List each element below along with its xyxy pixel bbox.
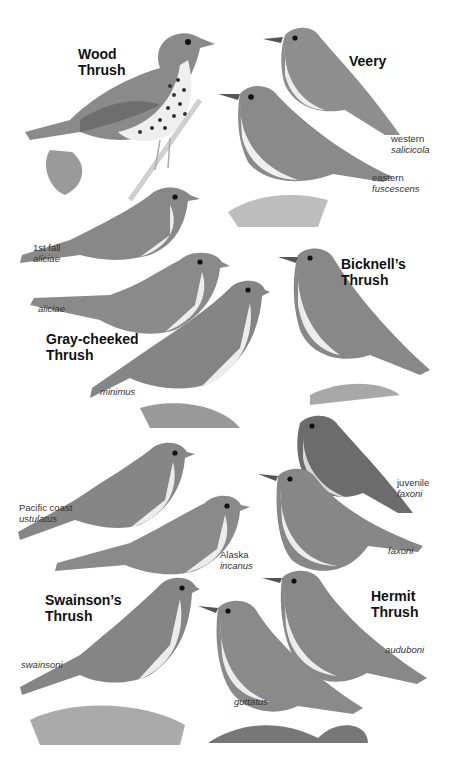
form-label-veery-western: western salicicola	[391, 134, 430, 156]
form-label-gray-cheeked-minimus: minimus	[100, 387, 135, 398]
form-subspecies: aliciae	[38, 304, 65, 315]
species-name-line1: Wood	[78, 46, 125, 62]
form-label-hermit-faxoni: faxoni	[388, 546, 413, 557]
form-label-hermit-auduboni: auduboni	[385, 645, 424, 656]
hermit-guttatus-illustration	[198, 598, 368, 748]
species-name-line2: Thrush	[45, 608, 122, 624]
form-subspecies: salicicola	[391, 145, 430, 156]
form-subspecies: auduboni	[385, 645, 424, 656]
species-label-hermit-thrush: Hermit Thrush	[371, 588, 418, 620]
form-label-gray-cheeked-aliciae: aliciae	[38, 304, 65, 315]
species-label-wood-thrush: Wood Thrush	[78, 46, 125, 78]
form-label-swainsons-alaska: Alaska incanus	[220, 550, 253, 572]
species-name-line2: Thrush	[46, 347, 139, 363]
form-label-swainsons-pacific-coast: Pacific coast ustulatus	[19, 503, 72, 525]
species-name-line1: Veery	[349, 53, 386, 69]
form-subspecies: faxoni	[397, 489, 429, 500]
swainsons-alaska-illustration	[55, 493, 250, 588]
form-subspecies: fuscescens	[372, 184, 420, 195]
form-subspecies: faxoni	[388, 546, 413, 557]
species-name-line1: Gray-cheeked	[46, 331, 139, 347]
species-name-line2: Thrush	[78, 62, 125, 78]
form-label-hermit-guttatus: guttatus	[234, 697, 268, 708]
form-subspecies: incanus	[220, 561, 253, 572]
form-subspecies: minimus	[100, 387, 135, 398]
species-name-line1: Swainson’s	[45, 592, 122, 608]
form-subspecies: swainsoni	[21, 660, 63, 671]
species-label-gray-cheeked-thrush: Gray-cheeked Thrush	[46, 331, 139, 363]
form-label-gray-cheeked-1st-fall: 1st fall aliciae	[33, 243, 60, 265]
species-label-veery: Veery	[349, 53, 386, 69]
species-label-bicknells-thrush: Bicknell’s Thrush	[341, 256, 406, 288]
form-label-veery-eastern: eastern fuscescens	[372, 173, 420, 195]
form-subspecies: aliciae	[33, 254, 60, 265]
species-name-line2: Thrush	[371, 604, 418, 620]
form-subspecies: ustulatus	[19, 514, 72, 525]
veery-eastern-illustration	[218, 82, 398, 232]
form-label-swainsons-swainsoni: swainsoni	[21, 660, 63, 671]
form-subspecies: guttatus	[234, 697, 268, 708]
species-name-line2: Thrush	[341, 272, 406, 288]
form-label-hermit-juvenile: juvenile faxoni	[397, 478, 429, 500]
field-guide-plate: Wood Thrush Veery western salicicola eas…	[0, 0, 451, 765]
species-name-line1: Hermit	[371, 588, 418, 604]
species-name-line1: Bicknell’s	[341, 256, 406, 272]
species-label-swainsons-thrush: Swainson’s Thrush	[45, 592, 122, 624]
